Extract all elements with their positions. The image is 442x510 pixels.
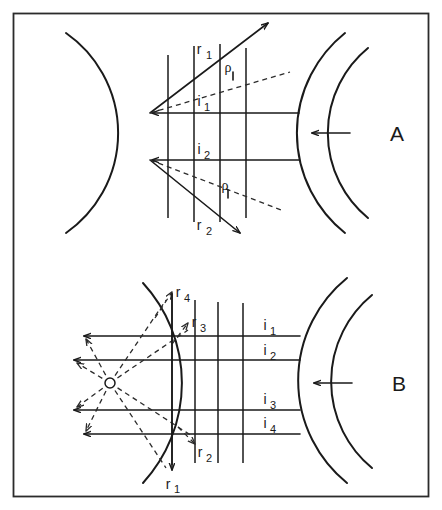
panel-b-left-arc [143,283,182,483]
panel-b-label-r3-sub: 3 [200,322,206,334]
panel-b-reflected-ray-r2 [178,427,195,444]
panel-a-label-i1-sub: 1 [204,101,210,113]
panel-b-focal-ray-r1 [110,383,166,468]
panel-a-title: A [390,122,404,145]
panel-b: i 1 i 2 i 3 i 4 r 4 r 3 r 2 r 1 B [74,278,406,495]
panel-b-label-i2-base: i [263,342,266,358]
panel-b-label-i4-base: i [263,415,266,431]
panel-b-label-r1-sub: 1 [174,483,180,495]
figure-root: r 1 r 2 i 1 i 2 ρ ρ A [0,0,442,510]
panel-a: r 1 r 2 i 1 i 2 ρ ρ A [66,23,404,237]
panel-a-label-i2-sub: 2 [204,149,210,161]
panel-a-label-rho-upper: ρ [225,60,232,75]
panel-b-focal-ray-r3 [110,330,188,383]
panel-a-label-r1-sub: 1 [206,49,212,61]
panel-b-label-i4-sub: 4 [270,423,276,435]
panel-a-label-i1-base: i [197,93,200,109]
panel-b-label-r2-sub: 2 [206,452,212,464]
panel-b-reflected-ray-r4 [155,292,172,318]
panel-b-label-r1-base: r [166,476,171,492]
panel-a-label-i2-base: i [197,141,200,157]
panel-b-label-i3-sub: 3 [270,399,276,411]
panel-a-reflected-ray-r2 [150,160,240,233]
panel-b-right-arc-inner [331,295,372,468]
panel-b-focus-point [105,378,115,388]
panel-b-label-i1-sub: 1 [270,325,276,337]
panel-b-label-i1-base: i [263,317,266,333]
panel-b-title: B [392,372,406,395]
panel-a-left-arc [66,33,118,233]
panel-a-rho-line-lower [150,160,284,211]
panel-a-label-rho-lower: ρ [222,178,229,193]
panel-a-label-r2-sub: 2 [206,225,212,237]
panel-b-label-r4-sub: 4 [184,292,190,304]
panel-a-label-r2-base: r [197,217,202,233]
panel-b-focal-ray-r4 [110,300,166,383]
panel-b-label-i2-sub: 2 [270,350,276,362]
panel-b-right-arc-outer [298,278,347,483]
panel-b-label-r4-base: r [176,284,181,300]
panel-b-focal-ray-lower-left [86,383,110,431]
figure-border [14,14,429,497]
panel-b-label-i3-base: i [263,391,266,407]
optics-diagram: r 1 r 2 i 1 i 2 ρ ρ A [0,0,442,510]
panel-b-label-r2-base: r [198,444,203,460]
panel-a-label-r1-base: r [197,41,202,57]
panel-b-focal-ray-left-lower [77,383,110,407]
panel-b-label-r3-base: r [192,314,197,330]
